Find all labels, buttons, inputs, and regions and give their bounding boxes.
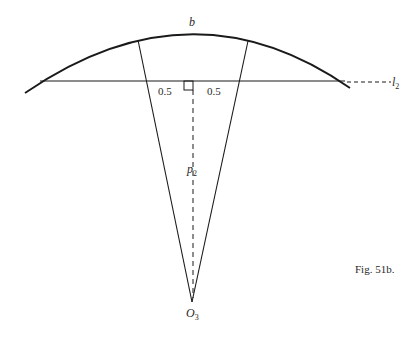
label-o3: O3 [186, 306, 199, 322]
diagram-canvas: b 0.5 0.5 l2 p2 O3 Fig. 51b. [0, 0, 420, 337]
right-angle-marker [184, 81, 193, 90]
right-radial-line [192, 41, 248, 302]
label-p2: p2 [186, 162, 197, 178]
left-radial-line [138, 40, 192, 302]
label-arc-b: b [189, 15, 195, 29]
figure-caption: Fig. 51b. [355, 263, 395, 275]
label-l2: l2 [392, 75, 399, 91]
arc-b [25, 34, 350, 93]
label-left-half: 0.5 [158, 85, 172, 97]
label-right-half: 0.5 [207, 85, 221, 97]
